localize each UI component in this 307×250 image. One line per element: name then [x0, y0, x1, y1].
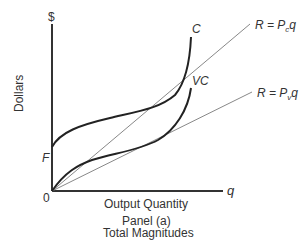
x-axis-title: Output Quantity	[104, 197, 188, 211]
rc-prefix: R = P	[255, 18, 285, 32]
panel-subtitle: Total Magnitudes	[103, 226, 194, 240]
c-curve-label: C	[192, 22, 201, 36]
vc-curve-label: VC	[192, 74, 209, 88]
x-axis-symbol: q	[227, 183, 235, 198]
origin-label: 0	[43, 191, 50, 205]
y-axis-title: Dollars	[12, 75, 26, 112]
y-axis-symbol: $	[48, 10, 55, 24]
rc-suffix: q	[289, 18, 296, 32]
rv-prefix: R = P	[257, 86, 287, 100]
fixed-cost-label: F	[42, 151, 50, 165]
rv-suffix: q	[291, 86, 298, 100]
rv-line-label: R = Pvq	[257, 86, 298, 102]
variable-cost-curve	[52, 88, 191, 191]
cost-revenue-chart: $ Dollars q Output Quantity 0 F C VC R =…	[0, 0, 307, 250]
rc-line-label: R = Pcq	[255, 18, 296, 34]
